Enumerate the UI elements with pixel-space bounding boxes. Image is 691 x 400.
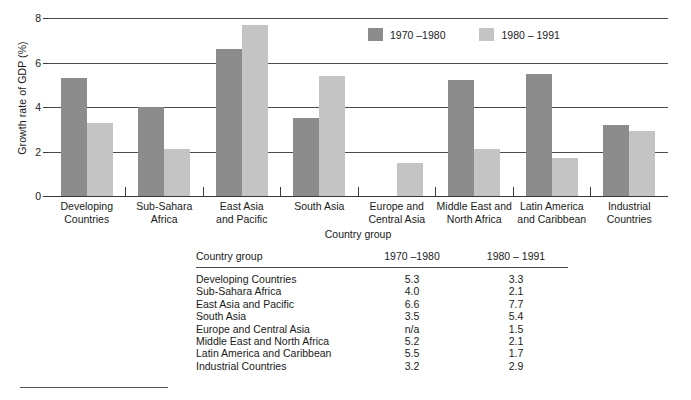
bar-series-2 [164, 149, 190, 196]
y-tick-label-0: 0 [35, 191, 41, 202]
table-cell-1970-1980: 6.6 [360, 298, 464, 310]
y-tick-label-6: 6 [35, 57, 41, 68]
x-axis-label-line: Developing [48, 200, 126, 213]
x-axis-label-3: South Asia [281, 200, 359, 225]
x-axis-line [48, 196, 668, 197]
y-tick-label-2: 2 [35, 146, 41, 157]
y-axis-title: Growth rate of GDP (%) [16, 8, 28, 188]
bar-series-2 [319, 76, 345, 196]
figure-page: Growth rate of GDP (%) 02468 DevelopingC… [0, 0, 691, 400]
bar-series-2 [474, 149, 500, 196]
bar-group [358, 18, 436, 196]
bar-group [126, 18, 204, 196]
x-axis-label-line: Sub-Sahara [126, 200, 204, 213]
x-axis-label-line: East Asia [203, 200, 281, 213]
bar-group [203, 18, 281, 196]
table-row: South Asia3.55.4 [196, 311, 568, 323]
x-axis-label-line: Europe and [358, 200, 436, 213]
x-axis-label-7: IndustrialCountries [591, 200, 669, 225]
table-cell-country-group: Industrial Countries [196, 360, 360, 372]
bar-series-2 [397, 163, 423, 196]
legend-swatch-icon-series-1 [368, 28, 383, 41]
x-axis-label-line: Central Asia [358, 213, 436, 226]
table-cell-1980-1991: 3.3 [464, 268, 568, 286]
x-axis-label-6: Latin Americaand Caribbean [513, 200, 591, 225]
table-cell-country-group: South Asia [196, 311, 360, 323]
x-axis-title: Country group [48, 228, 668, 240]
legend-swatch-icon-series-2 [479, 28, 494, 41]
x-axis-label-line: and Pacific [203, 213, 281, 226]
table-cell-1980-1991: 1.7 [464, 348, 568, 360]
bar-series-1 [216, 49, 242, 196]
x-axis-label-line: Industrial [591, 200, 669, 213]
x-axis-label-0: DevelopingCountries [48, 200, 126, 225]
table-header-country-group: Country group [196, 250, 360, 268]
table-row: Europe and Central Asian/a1.5 [196, 323, 568, 335]
bar-series-2 [87, 123, 113, 196]
table-cell-country-group: Middle East and North Africa [196, 335, 360, 347]
x-axis-label-2: East Asiaand Pacific [203, 200, 281, 225]
table-cell-1980-1991: 7.7 [464, 298, 568, 310]
table-cell-1970-1980: 3.5 [360, 311, 464, 323]
x-axis-label-line: North Africa [436, 213, 514, 226]
plot-area: 02468 [48, 18, 668, 196]
x-axis-label-line: and Caribbean [513, 213, 591, 226]
bar-series-1 [448, 80, 474, 196]
bar-group [436, 18, 514, 196]
x-axis-label-line: Latin America [513, 200, 591, 213]
table-row: Developing Countries5.33.3 [196, 268, 568, 286]
table-cell-country-group: Europe and Central Asia [196, 323, 360, 335]
table-header-1970-1980: 1970 –1980 [360, 250, 464, 268]
table-cell-1970-1980: 3.2 [360, 360, 464, 372]
x-axis-label-line: South Asia [281, 200, 359, 213]
bars-layer [48, 18, 668, 196]
table-cell-1970-1980: 5.5 [360, 348, 464, 360]
x-axis-label-line: Middle East and [436, 200, 514, 213]
legend-item-series-2: 1980 – 1991 [479, 28, 559, 41]
table-cell-country-group: Latin America and Caribbean [196, 348, 360, 360]
bar-series-1 [138, 107, 164, 196]
table-header-1980-1991: 1980 – 1991 [464, 250, 568, 268]
x-axis-label-line: Countries [591, 213, 669, 226]
x-axis-label-4: Europe andCentral Asia [358, 200, 436, 225]
legend-label-series-2: 1980 – 1991 [501, 29, 559, 41]
data-table: Country group 1970 –1980 1980 – 1991 Dev… [196, 250, 568, 373]
table-cell-1980-1991: 5.4 [464, 311, 568, 323]
x-axis-label-1: Sub-SaharaAfrica [126, 200, 204, 225]
table-cell-1980-1991: 2.9 [464, 360, 568, 372]
bar-series-2 [552, 158, 578, 196]
table-row: Industrial Countries3.22.9 [196, 360, 568, 372]
table-cell-country-group: Sub-Sahara Africa [196, 286, 360, 298]
table-cell-1980-1991: 2.1 [464, 286, 568, 298]
y-tick-label-8: 8 [35, 13, 41, 24]
bar-group [513, 18, 591, 196]
table-cell-country-group: East Asia and Pacific [196, 298, 360, 310]
table-row: Latin America and Caribbean5.51.7 [196, 348, 568, 360]
table-header-row: Country group 1970 –1980 1980 – 1991 [196, 250, 568, 268]
table-cell-1970-1980: n/a [360, 323, 464, 335]
x-axis-label-5: Middle East andNorth Africa [436, 200, 514, 225]
table-cell-1970-1980: 5.3 [360, 268, 464, 286]
bar-group [281, 18, 359, 196]
bar-series-2 [242, 25, 268, 196]
footnote-separator-rule [20, 387, 168, 388]
bar-series-1 [293, 118, 319, 196]
chart-legend: 1970 –1980 1980 – 1991 [368, 28, 560, 41]
bar-chart: Growth rate of GDP (%) 02468 DevelopingC… [0, 0, 691, 248]
x-axis-label-line: Countries [48, 213, 126, 226]
table-cell-1970-1980: 5.2 [360, 335, 464, 347]
table-row: Middle East and North Africa5.22.1 [196, 335, 568, 347]
x-axis-label-line: Africa [126, 213, 204, 226]
legend-label-series-1: 1970 –1980 [390, 29, 445, 41]
table-row: Sub-Sahara Africa4.02.1 [196, 286, 568, 298]
y-tick-label-4: 4 [35, 102, 41, 113]
bar-series-2 [629, 131, 655, 196]
table-cell-1980-1991: 2.1 [464, 335, 568, 347]
bar-series-1 [526, 74, 552, 196]
table-cell-1970-1980: 4.0 [360, 286, 464, 298]
table-body: Developing Countries5.33.3Sub-Sahara Afr… [196, 268, 568, 373]
x-axis-tick-labels: DevelopingCountriesSub-SaharaAfricaEast … [48, 200, 668, 225]
bar-series-1 [603, 125, 629, 196]
legend-item-series-1: 1970 –1980 [368, 28, 445, 41]
table-row: East Asia and Pacific6.67.7 [196, 298, 568, 310]
